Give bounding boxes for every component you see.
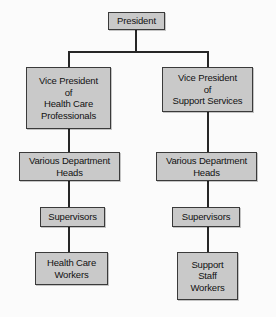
connector-dept-heads-to-supervisors-right <box>207 180 209 208</box>
node-president-line-1: President <box>117 15 156 27</box>
node-vp-health-line-2: of <box>65 87 73 99</box>
node-dept-heads-right-line-2: Heads <box>193 167 220 179</box>
node-vp-support-line-1: Vice President <box>178 72 237 84</box>
node-supervisors-right[interactable]: Supervisors <box>172 207 240 227</box>
node-vp-health-line-3: Health Care <box>44 98 93 110</box>
node-support-staff-workers-line-1: Support <box>191 259 223 271</box>
connector-bus-to-vp-health <box>68 51 70 68</box>
connector-vp-health-to-dept-heads <box>68 128 70 153</box>
node-health-care-workers-line-2: Workers <box>54 269 88 281</box>
node-vp-support-line-2: of <box>204 84 212 96</box>
node-dept-heads-right-line-1: Various Department <box>166 155 247 167</box>
node-support-staff-workers[interactable]: Support Staff Workers <box>177 252 238 300</box>
connector-bus-to-vp-support <box>207 51 209 68</box>
node-various-department-heads-left[interactable]: Various Department Heads <box>19 152 120 181</box>
node-supervisors-right-line-1: Supervisors <box>182 211 231 223</box>
connector-dept-heads-to-supervisors-left <box>68 180 70 208</box>
node-support-staff-workers-line-3: Workers <box>190 282 224 294</box>
node-health-care-workers-line-1: Health Care <box>47 257 96 269</box>
org-chart: President Vice President of Health Care … <box>0 0 276 317</box>
node-support-staff-workers-line-2: Staff <box>198 270 217 282</box>
node-health-care-workers[interactable]: Health Care Workers <box>35 252 108 285</box>
node-various-department-heads-right[interactable]: Various Department Heads <box>156 152 257 181</box>
node-supervisors-left-line-1: Supervisors <box>48 211 97 223</box>
node-vice-president-health-care-professionals[interactable]: Vice President of Health Care Profession… <box>26 67 111 129</box>
node-dept-heads-left-line-2: Heads <box>56 167 83 179</box>
node-vice-president-support-services[interactable]: Vice President of Support Services <box>162 67 253 112</box>
node-vp-health-line-4: Professionals <box>41 110 96 122</box>
node-vp-support-line-3: Support Services <box>173 95 243 107</box>
node-vp-health-line-1: Vice President <box>39 75 98 87</box>
node-president[interactable]: President <box>108 12 165 30</box>
node-supervisors-left[interactable]: Supervisors <box>40 207 105 227</box>
connector-supervisors-to-support-staff-workers <box>207 226 209 253</box>
connector-supervisors-to-health-care-workers <box>68 226 70 253</box>
connector-horizontal-bus <box>68 51 209 53</box>
connector-vp-support-to-dept-heads <box>207 111 209 153</box>
connector-president-to-bus <box>135 29 137 53</box>
node-dept-heads-left-line-1: Various Department <box>29 155 110 167</box>
